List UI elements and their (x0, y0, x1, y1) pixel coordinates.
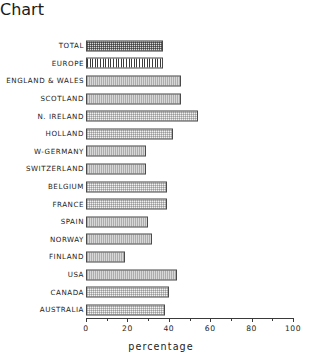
x-tick-major (86, 318, 87, 322)
bar-track (86, 111, 198, 122)
bar-n-ireland (86, 111, 198, 122)
chart-row: FINLAND (0, 248, 322, 266)
bar-belgium (86, 181, 167, 192)
chart-row: ENGLAND & WALES (0, 72, 322, 90)
category-label: N. IRELAND (0, 113, 84, 120)
bar-finland (86, 251, 125, 262)
bar-track (86, 40, 163, 51)
bar-holland (86, 128, 173, 139)
bar-europe (86, 58, 163, 69)
chart-row: NORWAY (0, 231, 322, 249)
bar-usa (86, 269, 177, 280)
bar-track (86, 234, 152, 245)
bar-track (86, 216, 148, 227)
bar-scotland (86, 93, 181, 104)
bar-track (86, 75, 181, 86)
bar-track (86, 251, 125, 262)
x-tick-label: 80 (246, 324, 257, 333)
bar-track (86, 287, 169, 298)
chart-row: SCOTLAND (0, 90, 322, 108)
chart-row: AUSTRALIA (0, 301, 322, 319)
bar-canada (86, 287, 169, 298)
x-tick-minor (107, 318, 108, 321)
x-tick-label: 0 (83, 324, 88, 333)
bar-track (86, 58, 163, 69)
chart-row: CANADA (0, 283, 322, 301)
chart-row: TOTAL (0, 37, 322, 55)
x-tick-minor (272, 318, 273, 321)
x-tick-major (252, 318, 253, 322)
bar-chart: TOTAL EUROPE ENGLAND & WALES SCOTLAND N. (0, 19, 322, 356)
bar-w-germany (86, 146, 146, 157)
bar-england-wales (86, 75, 181, 86)
chart-row: USA (0, 266, 322, 284)
chart-row: FRANCE (0, 195, 322, 213)
x-tick-label: 40 (163, 324, 174, 333)
bar-track (86, 163, 146, 174)
category-label: FRANCE (0, 201, 84, 208)
bar-spain (86, 216, 148, 227)
x-tick-major (210, 318, 211, 322)
bar-track (86, 93, 181, 104)
x-axis: 020406080100 (86, 318, 293, 319)
bar-track (86, 146, 146, 157)
chart-row: EUROPE (0, 55, 322, 73)
category-label: SPAIN (0, 218, 84, 225)
category-label: TOTAL (0, 42, 84, 49)
x-tick-major (169, 318, 170, 322)
bar-track (86, 128, 173, 139)
x-tick-minor (231, 318, 232, 321)
bar-norway (86, 234, 152, 245)
chart-row: SPAIN (0, 213, 322, 231)
x-tick-label: 100 (285, 324, 301, 333)
bar-france (86, 199, 167, 210)
bar-rows: TOTAL EUROPE ENGLAND & WALES SCOTLAND N. (0, 37, 322, 319)
bar-track (86, 304, 165, 315)
category-label: AUSTRALIA (0, 306, 84, 313)
category-label: SWITZERLAND (0, 165, 84, 172)
chart-row: BELGIUM (0, 178, 322, 196)
x-tick-major (127, 318, 128, 322)
chart-row: W-GERMANY (0, 143, 322, 161)
bar-track (86, 199, 167, 210)
bar-switzerland (86, 163, 146, 174)
x-tick-minor (190, 318, 191, 321)
category-label: ENGLAND & WALES (0, 77, 84, 84)
category-label: CANADA (0, 289, 84, 296)
category-label: USA (0, 271, 84, 278)
category-label: NORWAY (0, 236, 84, 243)
category-label: EUROPE (0, 60, 84, 67)
category-label: BELGIUM (0, 183, 84, 190)
category-label: HOLLAND (0, 130, 84, 137)
chart-row: HOLLAND (0, 125, 322, 143)
bar-track (86, 269, 177, 280)
category-label: W-GERMANY (0, 148, 84, 155)
category-label: SCOTLAND (0, 95, 84, 102)
chart-row: N. IRELAND (0, 107, 322, 125)
bar-total (86, 40, 163, 51)
x-tick-label: 20 (122, 324, 133, 333)
x-tick-label: 60 (205, 324, 216, 333)
x-tick-major (293, 318, 294, 322)
x-axis-title: percentage (0, 341, 322, 352)
x-tick-minor (148, 318, 149, 321)
category-label: FINLAND (0, 253, 84, 260)
bar-track (86, 181, 167, 192)
chart-row: SWITZERLAND (0, 160, 322, 178)
bar-australia (86, 304, 165, 315)
